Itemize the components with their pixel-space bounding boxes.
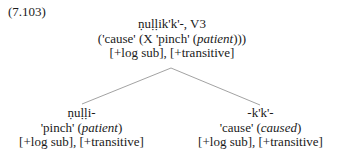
root-node: ṇuḷḷik'k'-, V3 ('cause' (X 'pinch' (pati…: [72, 17, 272, 61]
left-branch: [82, 68, 171, 104]
left-form: ṇuḷḷi-: [4, 106, 159, 121]
left-features: [+log sub], [+transitive]: [4, 135, 159, 150]
right-child-node: -k'k'- 'cause' (caused) [+log sub], [+tr…: [183, 106, 338, 150]
left-child-node: ṇuḷḷi- 'pinch' (patient) [+log sub], [+t…: [4, 106, 159, 150]
left-gloss-pre: 'pinch' (: [41, 120, 82, 135]
right-gloss-post: ): [297, 120, 301, 135]
right-gloss: 'cause' (caused): [183, 121, 338, 136]
root-form: ṇuḷḷik'k'-, V3: [72, 17, 272, 32]
root-gloss-pre: ('cause' (X 'pinch' (: [98, 31, 197, 46]
right-branch: [171, 68, 260, 105]
root-gloss-post: ))): [233, 31, 246, 46]
right-gloss-role: caused: [261, 120, 297, 135]
root-gloss-role: patient: [197, 31, 233, 46]
left-gloss-role: patient: [82, 120, 118, 135]
right-features: [+log sub], [+transitive]: [183, 135, 338, 150]
right-form: -k'k'-: [183, 106, 338, 121]
root-features: [+log sub], [+transitive]: [72, 46, 272, 61]
left-gloss: 'pinch' (patient): [4, 121, 159, 136]
right-gloss-pre: 'cause' (: [220, 120, 261, 135]
left-gloss-post: ): [118, 120, 122, 135]
root-gloss: ('cause' (X 'pinch' (patient))): [72, 32, 272, 47]
